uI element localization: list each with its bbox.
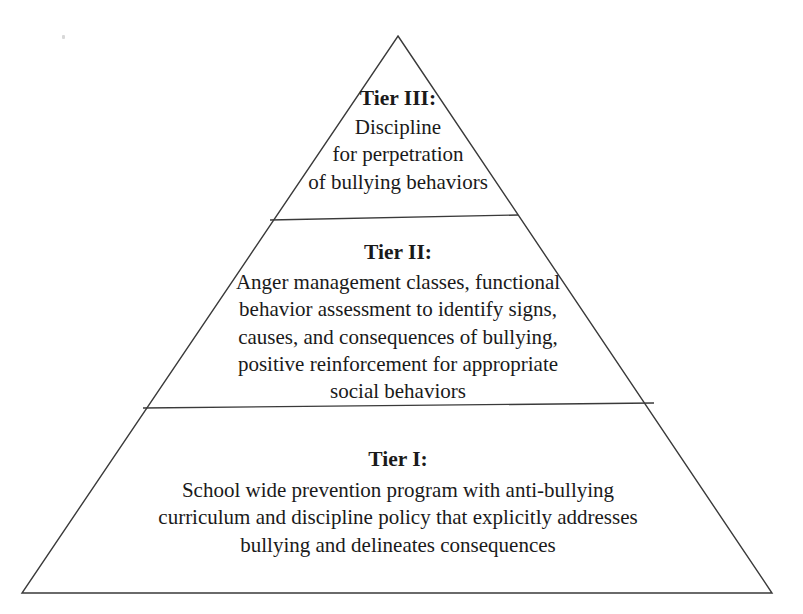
tier-3-body: Discipline for perpetration of bullying … (213, 114, 583, 196)
tier-2-line-2: behavior assessment to identify signs, (148, 296, 648, 323)
tier-1-line-3: bullying and delineates consequences (83, 532, 713, 559)
tier-2-heading: Tier II: (148, 239, 648, 267)
tier-3-line-2: for perpetration (213, 141, 583, 168)
tier-3-line-3: of bullying behaviors (213, 169, 583, 196)
tier-1-line-1: School wide prevention program with anti… (83, 477, 713, 504)
tier-3-heading: Tier III: (213, 85, 583, 113)
tier-3-text-block: Tier III: Discipline for perpetration of… (213, 85, 583, 196)
tier-3-line-1: Discipline (213, 114, 583, 141)
tier-1-heading: Tier I: (83, 446, 713, 474)
tier-2-body: Anger management classes, functional beh… (148, 269, 648, 405)
tier-1-line-2: curriculum and discipline policy that ex… (83, 504, 713, 531)
scan-artifact-speck (62, 35, 65, 39)
tier-2-line-4: positive reinforcement for appropriate (148, 351, 648, 378)
tier-2-line-5: social behaviors (148, 378, 648, 405)
tier-1-text-block: Tier I: School wide prevention program w… (83, 446, 713, 559)
tier-1-body: School wide prevention program with anti… (83, 477, 713, 559)
tier-divider-upper (270, 215, 518, 220)
pyramid-figure: Tier III: Discipline for perpetration of… (0, 0, 803, 614)
tier-2-line-3: causes, and consequences of bullying, (148, 324, 648, 351)
tier-2-line-1: Anger management classes, functional (148, 269, 648, 296)
tier-2-text-block: Tier II: Anger management classes, funct… (148, 239, 648, 405)
